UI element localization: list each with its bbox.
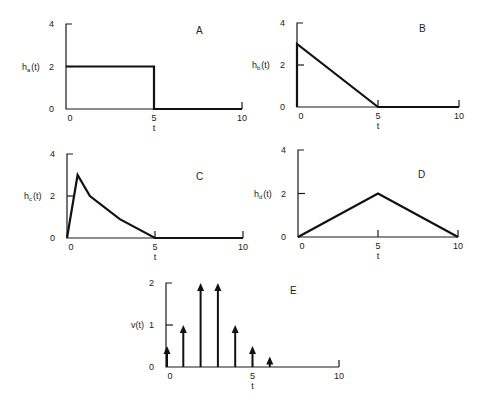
x-tick-label: 5	[152, 242, 157, 252]
curve	[67, 175, 243, 238]
x-tick-label: 10	[453, 241, 463, 251]
plot-a: 0240510tha(t)A	[22, 19, 247, 133]
x-tick-label: 10	[238, 242, 248, 252]
y-axis-label: hd(t)	[254, 189, 272, 200]
panel-label: A	[196, 25, 203, 36]
arrow-head-icon	[164, 346, 171, 354]
y-axis-label: hc(t)	[24, 191, 42, 202]
y-tick-label: 2	[49, 62, 54, 72]
x-tick-label: 0	[298, 111, 303, 121]
x-tick-label: 0	[167, 371, 172, 381]
y-tick-label: 2	[280, 60, 285, 70]
x-axis-label: t	[154, 252, 157, 262]
axes	[67, 154, 243, 238]
y-tick-label: 2	[149, 278, 154, 288]
y-tick-label: 2	[281, 189, 286, 199]
x-axis-label: t	[377, 121, 380, 131]
arrow-head-icon	[180, 325, 187, 333]
x-tick-label: 0	[68, 242, 73, 252]
plot-b: 0240510thb(t)B	[252, 18, 464, 131]
figure-canvas: 0240510tha(t)A0240510thb(t)B0240510thc(t…	[0, 0, 482, 408]
x-tick-label: 5	[250, 371, 255, 381]
panel-label: E	[290, 285, 297, 296]
y-tick-label: 0	[49, 104, 54, 114]
y-tick-label: 0	[280, 102, 285, 112]
curve	[297, 44, 459, 107]
y-tick-label: 0	[149, 362, 154, 372]
x-tick-label: 10	[454, 111, 464, 121]
y-axis-label: ha(t)	[22, 62, 40, 73]
x-axis-label: t	[251, 381, 254, 391]
y-tick-label: 1	[149, 320, 154, 330]
y-axis-label: v(t)	[131, 320, 144, 330]
panel-label: C	[196, 171, 203, 182]
y-axis-label: hb(t)	[252, 60, 270, 71]
y-tick-label: 4	[281, 145, 286, 155]
plot-e: 0120510tv(t)E	[131, 278, 344, 391]
x-tick-label: 5	[151, 113, 156, 123]
y-tick-label: 4	[280, 18, 285, 28]
axes	[297, 23, 459, 107]
y-tick-label: 4	[49, 19, 54, 29]
x-tick-label: 0	[299, 241, 304, 251]
x-axis-label: t	[377, 251, 380, 261]
arrow-head-icon	[249, 346, 256, 354]
panel-label: B	[419, 23, 426, 34]
x-tick-label: 10	[237, 113, 247, 123]
plot-d: 0240510thd(t)D	[254, 145, 463, 261]
arrow-head-icon	[232, 325, 239, 333]
curve	[66, 67, 242, 110]
x-axis-label: t	[153, 123, 156, 133]
arrow-head-icon	[266, 357, 273, 365]
arrow-head-icon	[197, 283, 204, 291]
x-tick-label: 5	[375, 111, 380, 121]
y-tick-label: 0	[50, 233, 55, 243]
panel-label: D	[418, 169, 425, 180]
plot-c: 0240510thc(t)C	[24, 149, 248, 262]
x-tick-label: 0	[67, 113, 72, 123]
y-tick-label: 4	[50, 149, 55, 159]
x-tick-label: 5	[375, 241, 380, 251]
y-tick-label: 0	[281, 232, 286, 242]
y-tick-label: 2	[50, 191, 55, 201]
x-tick-label: 10	[334, 371, 344, 381]
arrow-head-icon	[214, 283, 221, 291]
